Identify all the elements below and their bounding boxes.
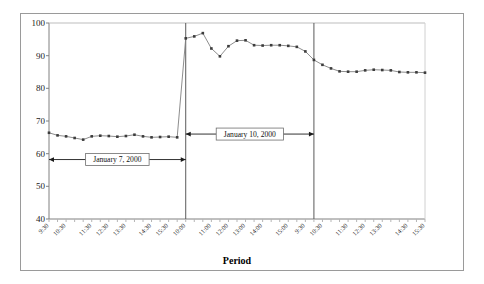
x-tick-label: 15:30: [154, 222, 169, 237]
chart-figure-frame: 100 90 80 70 60 50 40: [20, 13, 464, 271]
x-tick-label: 15:30: [410, 222, 425, 237]
y-tick-label: 80: [36, 83, 46, 93]
y-tick-label: 50: [36, 181, 46, 191]
y-axis-tick-labels: 100 90 80 70 60 50 40: [32, 18, 46, 224]
x-axis-title: Period: [223, 255, 252, 266]
x-tick-label: 13:00: [231, 222, 246, 237]
x-tick-label: 13:30: [111, 222, 126, 237]
x-tick-label: 10:00: [171, 222, 186, 237]
x-tick-label: 12:00: [214, 222, 229, 237]
x-tick-label: 11:00: [197, 222, 212, 237]
x-tick-label: 11:30: [334, 222, 349, 237]
x-tick-label: 14:30: [137, 222, 152, 237]
y-tick-label: 60: [36, 149, 46, 159]
line-chart-svg: 100 90 80 70 60 50 40: [21, 14, 465, 272]
x-tick-label: 11:30: [77, 222, 92, 237]
x-tick-label: 12:30: [94, 222, 109, 237]
x-tick-label: 9:30: [293, 222, 306, 235]
y-tick-label: 100: [32, 18, 46, 28]
january-10-annotation-label: January 10, 2000: [224, 130, 276, 139]
january-7-annotation-label: January 7, 2000: [93, 155, 141, 164]
x-axis-tick-labels: 9:3010:3011:3012:3013:3014:3015:3010:001…: [37, 222, 426, 237]
y-tick-label: 70: [36, 116, 46, 126]
x-tick-label: 14:00: [248, 222, 263, 237]
y-tick-label: 90: [36, 51, 46, 61]
x-tick-label: 13:30: [368, 222, 383, 237]
chart-plot-area: 100 90 80 70 60 50 40: [21, 14, 465, 272]
x-tick-label: 14:30: [393, 222, 408, 237]
x-tick-label: 12:30: [351, 222, 366, 237]
x-tick-label: 15:00: [274, 222, 289, 237]
x-tick-label: 10:30: [52, 222, 67, 237]
x-tick-label: 10:30: [308, 222, 323, 237]
plot-background: [49, 23, 425, 219]
